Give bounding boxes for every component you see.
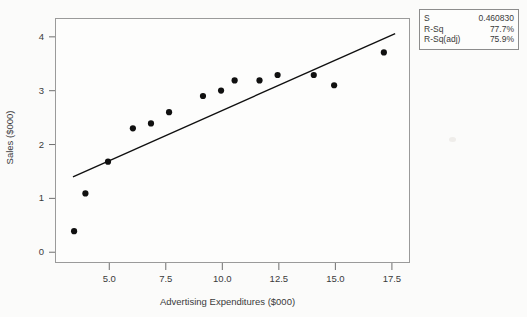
stats-row-s: S 0.460830 xyxy=(424,13,514,24)
data-point xyxy=(166,109,172,115)
x-axis-tick-label: 10.0 xyxy=(202,273,242,284)
regression-line xyxy=(73,34,395,177)
data-point xyxy=(381,49,387,55)
x-axis-title: Advertising Expenditures ($000) xyxy=(0,296,455,307)
data-point xyxy=(218,88,224,94)
chart-page: 01234 5.07.510.012.515.017.5 Advertising… xyxy=(0,0,527,317)
data-point xyxy=(130,125,136,131)
data-point xyxy=(311,72,317,78)
y-axis-tick-label: 4 xyxy=(22,31,44,42)
stats-row-rsq-adj: R-Sq(adj) 75.9% xyxy=(424,34,514,45)
x-axis-tick-label: 5.0 xyxy=(89,273,129,284)
x-axis-tick-label: 7.5 xyxy=(146,273,186,284)
scan-artifact xyxy=(449,137,456,142)
data-point xyxy=(274,72,280,78)
data-point xyxy=(105,159,111,165)
data-point xyxy=(200,93,206,99)
stats-value-rsq: 77.7% xyxy=(490,24,514,35)
data-point xyxy=(71,228,77,234)
data-point xyxy=(82,190,88,196)
data-point xyxy=(331,82,337,88)
y-axis-tick-label: 0 xyxy=(22,246,44,257)
y-axis-tick-label: 1 xyxy=(22,192,44,203)
x-axis-tick-label: 15.0 xyxy=(315,273,355,284)
stats-value-s: 0.460830 xyxy=(479,13,514,24)
stats-label-rsq-adj: R-Sq(adj) xyxy=(424,34,460,45)
data-point xyxy=(232,77,238,83)
stats-label-s: S xyxy=(424,13,430,24)
stats-row-rsq: R-Sq 77.7% xyxy=(424,24,514,35)
stats-label-rsq: R-Sq xyxy=(424,24,443,35)
y-axis-tick-label: 3 xyxy=(22,85,44,96)
scatter-plot-canvas xyxy=(56,19,411,264)
y-axis-tick-label: 2 xyxy=(22,139,44,150)
plot-area xyxy=(55,18,410,263)
x-axis-tick-label: 12.5 xyxy=(259,273,299,284)
regression-statistics-box: S 0.460830 R-Sq 77.7% R-Sq(adj) 75.9% xyxy=(419,9,519,50)
data-point xyxy=(256,77,262,83)
stats-value-rsq-adj: 75.9% xyxy=(490,34,514,45)
x-axis-tick-label: 17.5 xyxy=(372,273,412,284)
y-axis-title: Sales ($000) xyxy=(4,93,15,183)
data-point xyxy=(148,120,154,126)
